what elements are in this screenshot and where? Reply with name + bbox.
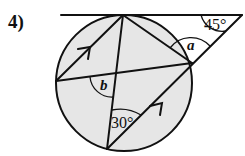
angle-label-a: a: [187, 37, 195, 53]
circle-theorem-diagram: 4) 45° a b 30°: [0, 0, 245, 156]
question-number: 4): [8, 11, 24, 33]
angle-label-30: 30°: [111, 114, 133, 131]
angle-label-45: 45°: [204, 16, 226, 33]
angle-label-b: b: [100, 77, 108, 93]
